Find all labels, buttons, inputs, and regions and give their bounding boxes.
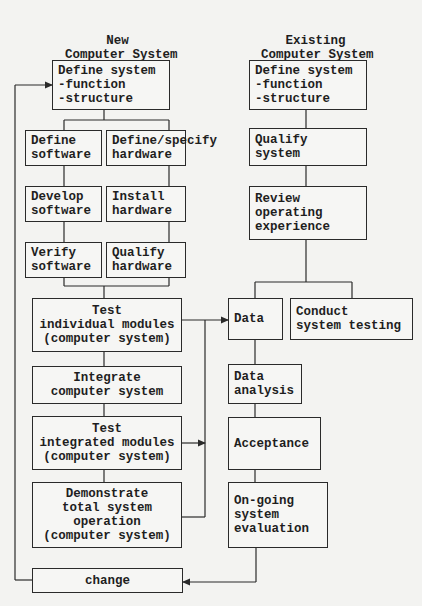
demonstrate-operation-box: Demonstrate total system operation (comp… (32, 482, 182, 548)
box-text: Develop (31, 190, 96, 204)
qualify-hardware-box: Qualify hardware (106, 242, 186, 278)
box-text: -function (58, 78, 164, 92)
box-text: Test (92, 422, 122, 436)
box-text: experience (255, 220, 361, 234)
box-text: change (85, 574, 130, 588)
box-text: Demonstrate (66, 487, 149, 501)
title-line: New (106, 34, 129, 48)
acceptance-box: Acceptance (228, 417, 321, 470)
box-text: system testing (296, 319, 407, 333)
box-text: Data (234, 370, 296, 384)
ongoing-evaluation-box: On-going system evaluation (228, 482, 328, 548)
box-text: software (31, 148, 96, 162)
conduct-system-testing-box: Conduct system testing (290, 298, 413, 340)
change-box: change (32, 568, 183, 593)
review-experience-box: Review operating experience (249, 186, 367, 240)
box-text: On-going (234, 494, 322, 508)
box-text: analysis (234, 384, 296, 398)
box-text: Acceptance (234, 437, 315, 451)
box-text: software (31, 260, 96, 274)
box-text: (computer system) (43, 450, 171, 464)
box-text: individual modules (39, 318, 174, 332)
existing-system-title: Existing Computer System (246, 20, 370, 62)
new-define-system-box: Define system -function -structure (52, 60, 170, 110)
box-text: -function (255, 78, 361, 92)
box-text: -structure (58, 92, 164, 106)
integrate-system-box: Integrate computer system (32, 366, 182, 404)
box-text: hardware (112, 204, 180, 218)
box-text: Data (234, 312, 277, 326)
install-hardware-box: Install hardware (106, 186, 186, 222)
box-text: Test (92, 304, 122, 318)
existing-define-system-box: Define system -function -structure (249, 60, 367, 110)
verify-software-box: Verify software (25, 242, 102, 278)
title-line: Existing (286, 34, 346, 48)
box-text: operating (255, 206, 361, 220)
data-analysis-box: Data analysis (228, 364, 302, 404)
qualify-system-box: Qualify system (249, 128, 367, 166)
box-text: total system (62, 501, 152, 515)
box-text: Define (31, 134, 96, 148)
box-text: Define/specify (112, 134, 180, 148)
box-text: hardware (112, 148, 180, 162)
box-text: computer system (51, 385, 164, 399)
box-text: system (255, 147, 361, 161)
box-text: -structure (255, 92, 361, 106)
box-text: Verify (31, 246, 96, 260)
box-text: Qualify (112, 246, 180, 260)
new-system-title: New Computer System (50, 20, 170, 62)
box-text: system (234, 508, 322, 522)
develop-software-box: Develop software (25, 186, 102, 222)
test-individual-modules-box: Test individual modules (computer system… (32, 298, 182, 352)
box-text: Define system (58, 64, 164, 78)
box-text: operation (73, 515, 141, 529)
test-integrated-modules-box: Test integrated modules (computer system… (32, 416, 182, 470)
box-text: Define system (255, 64, 361, 78)
box-text: Review (255, 192, 361, 206)
box-text: software (31, 204, 96, 218)
box-text: hardware (112, 260, 180, 274)
box-text: (computer system) (43, 529, 171, 543)
box-text: evaluation (234, 522, 322, 536)
data-box: Data (228, 298, 283, 340)
box-text: Install (112, 190, 180, 204)
box-text: integrated modules (39, 436, 174, 450)
box-text: (computer system) (43, 332, 171, 346)
define-software-box: Define software (25, 130, 102, 166)
box-text: Integrate (73, 371, 141, 385)
box-text: Qualify (255, 133, 361, 147)
define-hardware-box: Define/specify hardware (106, 130, 186, 166)
box-text: Conduct (296, 305, 407, 319)
